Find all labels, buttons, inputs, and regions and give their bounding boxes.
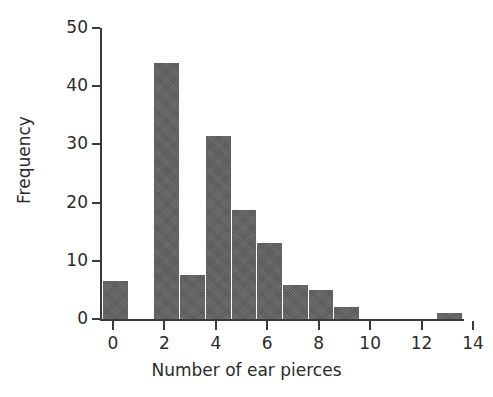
x-axis-tick [421, 321, 423, 330]
bar [206, 136, 232, 319]
bar [437, 313, 463, 319]
x-axis-tick [215, 321, 217, 330]
x-axis-tick-label: 4 [196, 335, 236, 352]
x-axis-tick [163, 321, 165, 330]
y-axis-tick [92, 260, 100, 262]
y-axis-tick-label: 50 [52, 19, 88, 36]
histogram-chart: 01020304050 02468101214 Number of ear pi… [0, 0, 493, 397]
x-axis-tick [318, 321, 320, 330]
x-axis-tick [369, 321, 371, 330]
bar [103, 281, 129, 319]
y-axis-tick [92, 143, 100, 145]
x-axis-line [100, 319, 464, 321]
y-axis-tick-label: 0 [52, 310, 88, 327]
x-axis-tick-label: 12 [402, 335, 442, 352]
x-axis-tick [112, 321, 114, 330]
x-axis-tick-label: 8 [299, 335, 339, 352]
x-axis-tick-label: 10 [350, 335, 390, 352]
y-axis-line [100, 28, 102, 320]
x-axis-tick-label: 6 [247, 335, 287, 352]
x-axis-tick [266, 321, 268, 330]
x-axis-tick-label: 14 [453, 335, 493, 352]
y-axis-tick [92, 27, 100, 29]
x-axis-tick [472, 321, 474, 330]
y-axis-tick [92, 202, 100, 204]
bar [180, 275, 206, 319]
x-axis-title: Number of ear pierces [0, 360, 493, 380]
y-axis-tick [92, 318, 100, 320]
bar [232, 210, 258, 319]
y-axis-title: Frequency [14, 70, 34, 250]
x-axis-tick-label: 2 [144, 335, 184, 352]
y-axis-tick-label: 20 [52, 194, 88, 211]
y-axis-tick-label: 40 [52, 77, 88, 94]
bar [154, 63, 180, 319]
bar [309, 290, 335, 319]
bar [334, 307, 360, 319]
y-axis-tick-label: 30 [52, 135, 88, 152]
y-axis-tick [92, 85, 100, 87]
plot-area [103, 28, 463, 319]
y-axis-tick-label: 10 [52, 252, 88, 269]
bar [283, 285, 309, 319]
bar [257, 243, 283, 319]
x-axis-tick-label: 0 [93, 335, 133, 352]
